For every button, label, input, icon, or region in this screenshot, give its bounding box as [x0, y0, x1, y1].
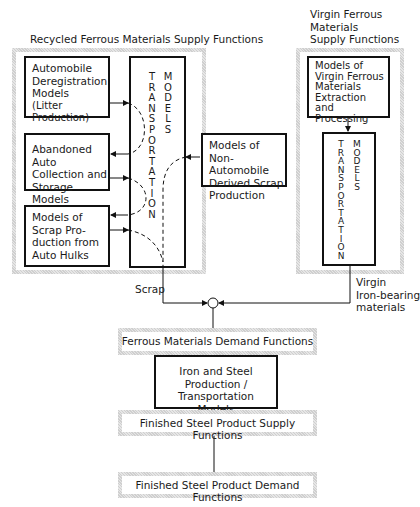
connector-lines: [0, 0, 419, 507]
